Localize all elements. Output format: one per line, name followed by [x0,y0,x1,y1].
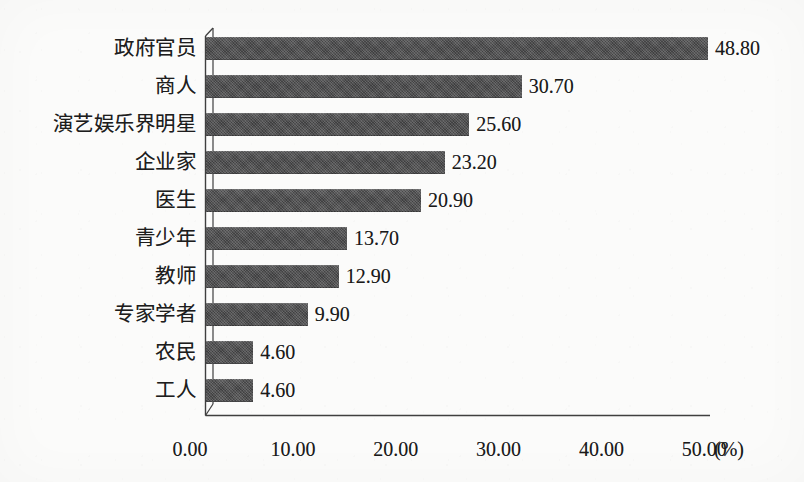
bar[interactable] [206,37,708,60]
bar-value-label: 13.70 [354,227,399,250]
bar-group: 13.70 [206,227,399,250]
x-tick-label: 10.00 [270,436,315,462]
x-tick-label: 20.00 [373,436,418,462]
bar[interactable] [206,75,522,98]
bar-value-label: 20.90 [428,189,473,212]
x-tick-label: 0.00 [173,436,208,462]
bar-group: 4.60 [206,379,295,402]
bar[interactable] [206,151,445,174]
category-label: 教师 [155,265,196,288]
table-row: 医生 20.90 [0,189,804,227]
bar-value-label: 23.20 [452,151,497,174]
category-label: 农民 [155,341,196,364]
bar-group: 20.90 [206,189,473,212]
category-label: 工人 [155,379,196,402]
bar-value-label: 48.80 [715,37,760,60]
bar-group: 25.60 [206,113,521,136]
category-label: 演艺娱乐界明星 [53,113,197,136]
table-row: 商人 30.70 [0,75,804,113]
bar-value-label: 4.60 [260,341,295,364]
table-row: 教师 12.90 [0,265,804,303]
chart-page: 政府官员 48.80 商人 30.70 演艺娱乐界明星 25.60 [0,0,804,482]
bar[interactable] [206,227,347,250]
table-row: 演艺娱乐界明星 25.60 [0,113,804,151]
bar-group: 4.60 [206,341,295,364]
table-row: 政府官员 48.80 [0,37,804,75]
bar-value-label: 4.60 [260,379,295,402]
category-label: 医生 [155,189,196,212]
x-axis-unit-label: (%) [714,436,744,462]
bar[interactable] [206,379,253,402]
bar[interactable] [206,189,421,212]
bar-group: 23.20 [206,151,497,174]
table-row: 专家学者 9.90 [0,303,804,341]
bar-group: 30.70 [206,75,574,98]
bar-value-label: 12.90 [346,265,391,288]
bar-chart: 政府官员 48.80 商人 30.70 演艺娱乐界明星 25.60 [0,0,804,482]
bar-group: 12.90 [206,265,391,288]
x-axis-tick-labels: 0.00 10.00 20.00 30.00 40.00 50.00 [0,436,804,464]
category-label: 政府官员 [114,37,196,60]
category-label: 商人 [155,75,196,98]
bar[interactable] [206,303,308,326]
bar-rows: 政府官员 48.80 商人 30.70 演艺娱乐界明星 25.60 [0,37,804,417]
x-tick-label: 40.00 [579,436,624,462]
bar-value-label: 25.60 [476,113,521,136]
x-tick-label: 30.00 [476,436,521,462]
bar-value-label: 9.90 [315,303,350,326]
bar-group: 9.90 [206,303,350,326]
table-row: 农民 4.60 [0,341,804,379]
table-row: 青少年 13.70 [0,227,804,265]
table-row: 工人 4.60 [0,379,804,417]
bar[interactable] [206,113,469,136]
bar[interactable] [206,341,253,364]
bar-group: 48.80 [206,37,760,60]
category-label: 专家学者 [114,303,196,326]
bar[interactable] [206,265,339,288]
category-label: 企业家 [135,151,197,174]
bar-value-label: 30.70 [529,75,574,98]
category-label: 青少年 [135,227,197,250]
table-row: 企业家 23.20 [0,151,804,189]
